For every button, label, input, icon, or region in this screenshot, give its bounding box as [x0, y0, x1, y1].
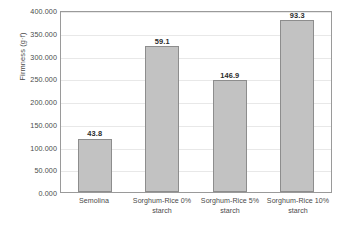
plot-area: 43.859.1146.993.3 [60, 11, 332, 193]
bar[interactable]: 146.9 [213, 80, 247, 192]
bar-data-label: 59.1 [155, 37, 170, 46]
x-axis-tick-label: Sorghum-Rice 5% starch [196, 196, 264, 217]
y-axis-tick-label: 50.000 [34, 166, 57, 175]
x-axis-tick-labels: SemolinaSorghum-Rice 0% starchSorghum-Ri… [60, 196, 332, 217]
y-axis-tick-label: 300.000 [30, 52, 57, 61]
y-axis-tick-labels: 400.000350.000300.000250.000200.000150.0… [14, 11, 57, 193]
bar-series: 43.859.1146.993.3 [61, 12, 331, 192]
y-axis-tick-label: 100.000 [30, 143, 57, 152]
y-axis-tick-label: 0.000 [39, 189, 58, 198]
bar[interactable]: 93.3 [280, 20, 314, 192]
gridline [61, 193, 331, 194]
bar-data-label: 93.3 [290, 11, 305, 20]
bar-data-label: 43.8 [87, 129, 102, 138]
bar-data-label: 146.9 [220, 71, 239, 80]
x-axis-tick-label: Sorghum-Rice 10% starch [264, 196, 332, 217]
bar-slot: 43.8 [61, 12, 129, 192]
y-axis-tick-label: 350.000 [30, 29, 57, 38]
x-axis-tick-label: Semolina [60, 196, 128, 217]
bar[interactable]: 59.1 [145, 46, 179, 192]
bar-slot: 93.3 [264, 12, 332, 192]
y-axis-tick-label: 250.000 [30, 75, 57, 84]
y-axis-tick-label: 400.000 [30, 7, 57, 16]
bar-chart-figure: Firmness (g·f) 400.000350.000300.000250.… [0, 0, 344, 231]
y-axis-tick-label: 200.000 [30, 98, 57, 107]
bar-slot: 59.1 [129, 12, 197, 192]
x-axis-tick-label: Sorghum-Rice 0% starch [128, 196, 196, 217]
bar-slot: 146.9 [196, 12, 264, 192]
y-axis-tick-label: 150.000 [30, 120, 57, 129]
bar[interactable]: 43.8 [78, 139, 112, 192]
